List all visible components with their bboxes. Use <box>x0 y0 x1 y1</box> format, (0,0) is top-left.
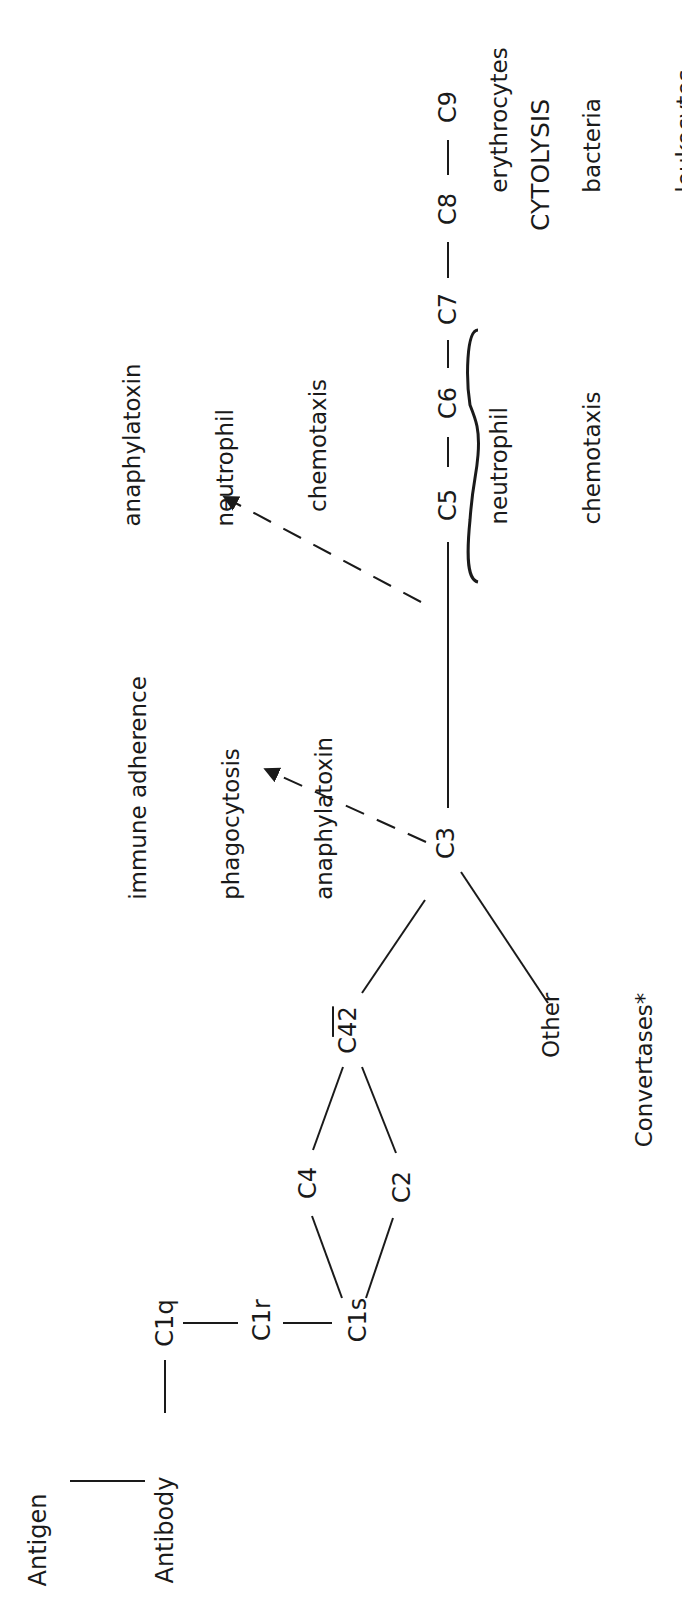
node-antigen: Antigen <box>26 1494 50 1587</box>
edge-c4-c42 <box>313 1067 343 1150</box>
cytolysis-targets: erythrocytes bacteria leukocytes tumor c… <box>422 47 682 192</box>
node-c2: C2 <box>390 1171 414 1203</box>
edge-c3-other <box>461 872 548 1003</box>
node-c4: C4 <box>296 1167 320 1199</box>
node-c1q: C1q <box>153 1299 177 1346</box>
edge-c1s-c2 <box>366 1218 393 1298</box>
edge-c42-c3 <box>362 900 425 993</box>
node-c1s: C1s <box>346 1298 370 1343</box>
node-c42: C42 <box>336 1006 360 1053</box>
node-antibody: Antibody <box>153 1476 177 1583</box>
node-c3: C3 <box>434 827 458 859</box>
node-c1r: C1r <box>250 1299 274 1341</box>
node-c7: C7 <box>436 293 460 325</box>
node-other-convertases: Other Convertases* <box>474 993 682 1148</box>
annotation-c3-effects: immune adherence phagocytosis anaphylato… <box>61 676 371 900</box>
annotation-c5-effects: anaphylatoxin neutrophil chemotaxis <box>55 364 365 527</box>
edge-c2-c42 <box>362 1067 396 1153</box>
edge-c1s-c4 <box>312 1216 342 1298</box>
node-c8: C8 <box>436 193 460 225</box>
annotation-c567-effect: neutrophil chemotaxis <box>422 392 639 525</box>
